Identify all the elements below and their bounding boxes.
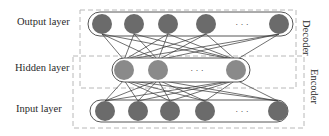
output-node: [196, 14, 216, 34]
input-node: [160, 101, 180, 121]
hidden-node: [148, 60, 168, 80]
hidden-layer-label: Hidden layer: [15, 62, 70, 73]
output-layer: [88, 12, 293, 36]
output-layer-pill: [88, 12, 293, 36]
input-layer: [90, 100, 288, 122]
autoencoder-diagram: · · · · · · · · · Output layer Hidden la…: [0, 0, 329, 136]
output-node: [269, 14, 289, 34]
hidden-node: [114, 60, 134, 80]
input-node: [268, 101, 288, 121]
output-node: [92, 14, 112, 34]
output-node: [158, 14, 178, 34]
encoder-label: Encoder: [309, 69, 320, 104]
input-node: [95, 101, 115, 121]
hidden-ellipsis: · · ·: [190, 65, 204, 75]
hidden-layer: [112, 58, 250, 82]
input-node: [195, 101, 215, 121]
input-layer-pill: [90, 100, 288, 122]
encoder-edges: [105, 80, 278, 101]
output-ellipsis: · · ·: [235, 19, 249, 29]
input-node: [128, 101, 148, 121]
input-ellipsis: · · ·: [235, 106, 249, 116]
decoder-label: Decoder: [301, 20, 312, 56]
input-layer-label: Input layer: [16, 103, 62, 114]
output-node: [124, 14, 144, 34]
hidden-node: [226, 60, 246, 80]
output-layer-label: Output layer: [17, 16, 70, 27]
